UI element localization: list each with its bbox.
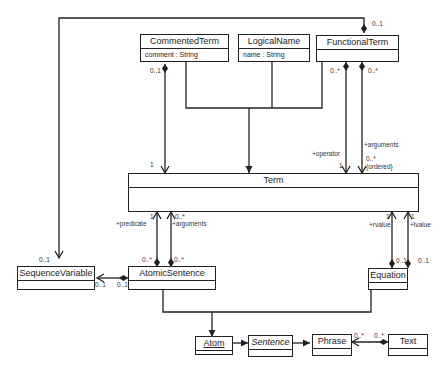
role-label: +rvalue <box>369 221 391 229</box>
role-label: +predicate <box>116 220 147 228</box>
multiplicity-label: 1 <box>150 161 154 169</box>
class-logical-name[interactable]: LogicalName name : String <box>238 34 310 62</box>
multiplicity-label: 0..* <box>174 256 184 264</box>
multiplicity-label: 0..* <box>374 332 384 340</box>
multiplicity-label: 0..1 <box>372 20 383 28</box>
class-equation[interactable]: Equation <box>368 268 408 290</box>
role-label: +arguments <box>172 220 207 228</box>
class-name: Atom <box>196 337 232 351</box>
class-name: LogicalName <box>239 35 309 49</box>
class-name: Term <box>129 174 418 188</box>
multiplicity-label: 1 <box>386 213 390 221</box>
class-atom[interactable]: Atom <box>195 336 233 355</box>
class-name: Equation <box>369 269 407 283</box>
class-name: Text <box>389 335 427 349</box>
multiplicity-label: 1 <box>150 213 154 221</box>
role-label: +arguments <box>364 141 399 149</box>
multiplicity-label: 0..1 <box>396 257 407 265</box>
class-term[interactable]: Term <box>128 173 419 212</box>
multiplicity-label: 0..* <box>366 155 376 163</box>
class-name: Sentence <box>249 336 292 350</box>
class-name: AtomicSentence <box>129 267 215 281</box>
role-label: +operator <box>312 150 340 158</box>
multiplicity-label: 0..1 <box>150 67 161 75</box>
class-name: Phrase <box>313 335 351 349</box>
class-text[interactable]: Text <box>388 334 428 356</box>
class-phrase[interactable]: Phrase <box>312 334 352 356</box>
multiplicity-label: 0..* <box>368 67 378 75</box>
multiplicity-label: 0..1 <box>39 256 50 264</box>
multiplicity-label: 0..1 <box>418 257 429 265</box>
class-sentence[interactable]: Sentence <box>248 335 293 357</box>
class-name: FunctionalTerm <box>317 36 398 50</box>
multiplicity-label: 0..* <box>330 67 340 75</box>
multiplicity-label: 0..1 <box>95 281 106 289</box>
class-attribute: comment : String <box>141 49 228 60</box>
multiplicity-label: 1 <box>339 162 343 170</box>
class-name: SequenceVariable <box>18 267 94 281</box>
class-name: CommentedTerm <box>141 35 228 49</box>
multiplicity-label: 0..* <box>142 256 152 264</box>
class-sequence-variable[interactable]: SequenceVariable <box>17 266 95 290</box>
class-attribute: name : String <box>239 49 309 60</box>
class-atomic-sentence[interactable]: AtomicSentence <box>128 266 216 290</box>
class-commented-term[interactable]: CommentedTerm comment : String <box>140 34 229 62</box>
class-functional-term[interactable]: FunctionalTerm <box>316 35 399 62</box>
multiplicity-label: 1 <box>411 213 415 221</box>
role-label: +lvalue <box>410 221 431 229</box>
multiplicity-label: 0..1 <box>117 281 128 289</box>
constraint-label: {ordered} <box>366 163 393 171</box>
multiplicity-label: 0..* <box>354 332 364 340</box>
